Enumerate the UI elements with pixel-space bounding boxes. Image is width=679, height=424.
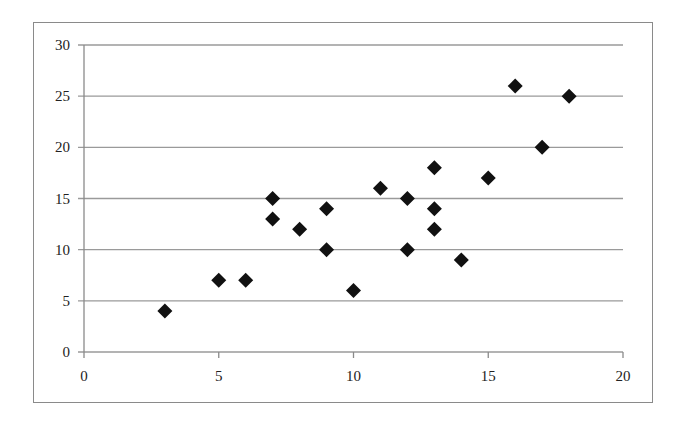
y-tick-label: 20 [55, 139, 70, 155]
data-point-diamond [265, 191, 280, 206]
data-point-diamond [319, 242, 334, 257]
data-point-diamond [157, 304, 172, 319]
data-point-diamond [400, 191, 415, 206]
x-tick-label: 5 [215, 368, 223, 384]
data-point-diamond [562, 89, 577, 104]
data-point-diamond [319, 201, 334, 216]
y-tick-label: 10 [55, 242, 70, 258]
x-axis-tick-labels: 05101520 [80, 368, 630, 384]
x-tick-label: 20 [616, 368, 631, 384]
data-point-diamond [427, 222, 442, 237]
x-tick-label: 0 [80, 368, 88, 384]
data-point-diamond [265, 211, 280, 226]
data-point-diamond [373, 181, 388, 196]
data-point-diamond [400, 242, 415, 257]
x-tick-label: 10 [346, 368, 361, 384]
scatter-chart: 051015202530 05101520 [0, 0, 679, 424]
data-point-diamond [346, 283, 361, 298]
x-tick-label: 15 [481, 368, 496, 384]
data-point-diamond [535, 140, 550, 155]
data-point-diamond [211, 273, 226, 288]
y-tick-label: 30 [55, 37, 70, 53]
data-point-diamond [427, 201, 442, 216]
y-tick-label: 15 [55, 191, 70, 207]
data-point-diamond [481, 171, 496, 186]
gridlines [78, 45, 623, 352]
data-point-diamond [508, 78, 523, 93]
y-axis-tick-labels: 051015202530 [55, 37, 70, 360]
data-point-diamond [238, 273, 253, 288]
data-point-diamond [292, 222, 307, 237]
data-point-diamond [454, 252, 469, 267]
y-tick-label: 0 [63, 344, 71, 360]
y-tick-label: 5 [63, 293, 71, 309]
y-tick-label: 25 [55, 88, 70, 104]
data-point-diamond [427, 160, 442, 175]
